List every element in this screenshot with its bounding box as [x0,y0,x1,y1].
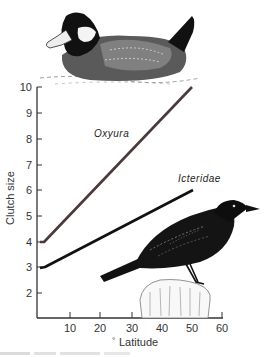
latitude-clutch-size-figure: 10 9 8 7 6 5 4 3 2 Clutch size 10 20 30 … [0,0,268,357]
x-tick-60: 60 [216,322,228,334]
y-axis: 10 9 8 7 6 5 4 3 2 Clutch size [4,81,42,318]
x-tick-10: 10 [64,322,76,334]
x-tick-30: 30 [126,322,138,334]
y-tick-4: 4 [26,236,32,248]
x-axis-title: Latitude [119,336,158,348]
duck-illustration [40,12,200,84]
y-tick-5: 5 [26,210,32,222]
y-tick-2: 2 [26,287,32,299]
y-tick-9: 9 [26,107,32,119]
y-tick-10: 10 [20,81,32,93]
x-tick-20: 20 [94,322,106,334]
y-tick-7: 7 [26,159,32,171]
y-tick-3: 3 [26,261,32,273]
y-tick-8: 8 [26,133,32,145]
blackbird-illustration [100,200,260,318]
y-tick-6: 6 [26,184,32,196]
y-axis-title: Clutch size [4,171,16,225]
oxyura-label: Oxyura [94,128,129,139]
icteridae-label: Icteridae [178,173,221,184]
x-tick-50: 50 [186,322,198,334]
x-tick-40: 40 [156,322,168,334]
oxyura-line [40,87,192,242]
degree-symbol: ° [112,336,115,345]
caption-fragment [0,352,130,355]
